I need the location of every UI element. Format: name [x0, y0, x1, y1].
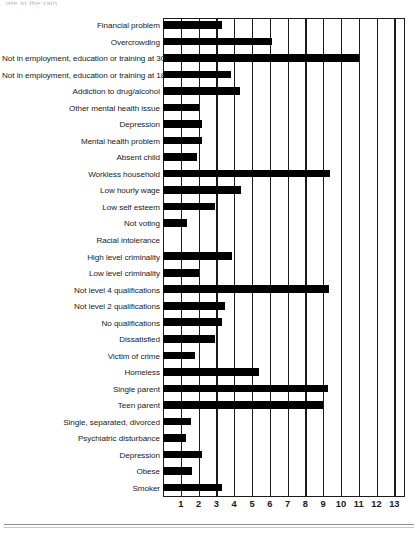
- bar: [163, 335, 215, 343]
- category-label: Single parent: [2, 385, 160, 394]
- bar-row: [163, 282, 405, 299]
- chart-figure: ate in the rain Financial problemOvercro…: [0, 0, 420, 538]
- category-label: Depression: [2, 451, 160, 460]
- bar-row: [163, 431, 405, 448]
- bar: [163, 120, 202, 128]
- bar: [163, 137, 202, 145]
- category-label: Overcrowding: [2, 38, 160, 47]
- bar-row: [163, 200, 405, 217]
- bar: [163, 352, 195, 360]
- bar-row: [163, 84, 405, 101]
- bar: [163, 467, 192, 475]
- bar: [163, 269, 199, 277]
- x-tick-label: 13: [382, 499, 406, 510]
- bar: [163, 87, 240, 95]
- category-label: Low hourly wage: [2, 186, 160, 195]
- category-label: Not level 2 qualifications: [2, 302, 160, 311]
- category-label: Teen parent: [2, 401, 160, 410]
- bar: [163, 54, 359, 62]
- bar-row: [163, 35, 405, 52]
- category-label: Financial problem: [2, 21, 160, 30]
- bar: [163, 385, 328, 393]
- bar-row: [163, 348, 405, 365]
- bar-row: [163, 414, 405, 431]
- category-label: Not level 4 qualifications: [2, 286, 160, 295]
- bar-row: [163, 51, 405, 68]
- category-label: Not in employment, education or training…: [2, 54, 160, 63]
- bar-row: [163, 365, 405, 382]
- bar: [163, 104, 199, 112]
- bar-row: [163, 18, 405, 35]
- bar-row: [163, 150, 405, 167]
- category-label: Homeless: [2, 368, 160, 377]
- bar-row: [163, 68, 405, 85]
- bar: [163, 21, 222, 29]
- category-label: Smoker: [2, 484, 160, 493]
- category-label: Absent child: [2, 153, 160, 162]
- category-label: Victim of crime: [2, 352, 160, 361]
- bar: [163, 219, 187, 227]
- bar: [163, 38, 272, 46]
- bar: [163, 484, 222, 492]
- footer-divider-secondary: [4, 527, 414, 528]
- category-label: Single, separated, divorced: [2, 418, 160, 427]
- bar: [163, 302, 225, 310]
- category-axis-labels: Financial problemOvercrowdingNot in empl…: [0, 18, 160, 497]
- bar-row: [163, 398, 405, 415]
- bar: [163, 153, 197, 161]
- bar: [163, 318, 222, 326]
- bar: [163, 203, 215, 211]
- bar: [163, 418, 191, 426]
- footer-divider: [4, 524, 414, 525]
- category-label: Workless household: [2, 170, 160, 179]
- category-label: Dissatisfied: [2, 335, 160, 344]
- category-label: Racial intolerance: [2, 236, 160, 245]
- bar-row: [163, 233, 405, 250]
- cut-off-heading-fragment: ate in the rain: [6, 0, 76, 5]
- category-label: Mental health problem: [2, 137, 160, 146]
- bar-row: [163, 299, 405, 316]
- bar-row: [163, 101, 405, 118]
- bar-row: [163, 464, 405, 481]
- category-label: Depression: [2, 120, 160, 129]
- category-label: Not voting: [2, 219, 160, 228]
- bar-row: [163, 381, 405, 398]
- bar: [163, 401, 323, 409]
- bar: [163, 170, 330, 178]
- category-label: Obese: [2, 467, 160, 476]
- category-label: Addiction to drug/alcohol: [2, 87, 160, 96]
- bar-row: [163, 266, 405, 283]
- category-label: No qualifications: [2, 319, 160, 328]
- category-label: Not in employment, education or training…: [2, 71, 160, 80]
- bar-row: [163, 249, 405, 266]
- x-axis-tick-labels: 12345678910111213: [163, 499, 405, 513]
- bar-row: [163, 216, 405, 233]
- bar: [163, 252, 232, 260]
- bar: [163, 186, 241, 194]
- category-label: Other mental health issue: [2, 104, 160, 113]
- bar-row: [163, 315, 405, 332]
- bar-rows: [163, 18, 405, 497]
- bar: [163, 368, 259, 376]
- bar-row: [163, 117, 405, 134]
- bar-row: [163, 134, 405, 151]
- category-label: Low level criminality: [2, 269, 160, 278]
- category-label: Low self esteem: [2, 203, 160, 212]
- category-label: Psychiatric disturbance: [2, 434, 160, 443]
- bar: [163, 285, 329, 293]
- bar-row: [163, 332, 405, 349]
- plot-area: [163, 18, 405, 497]
- category-label: High level criminality: [2, 253, 160, 262]
- bar: [163, 71, 231, 79]
- bar: [163, 451, 202, 459]
- bar-row: [163, 480, 405, 497]
- bar-row: [163, 447, 405, 464]
- bar: [163, 434, 186, 442]
- bar-row: [163, 167, 405, 184]
- bar-row: [163, 183, 405, 200]
